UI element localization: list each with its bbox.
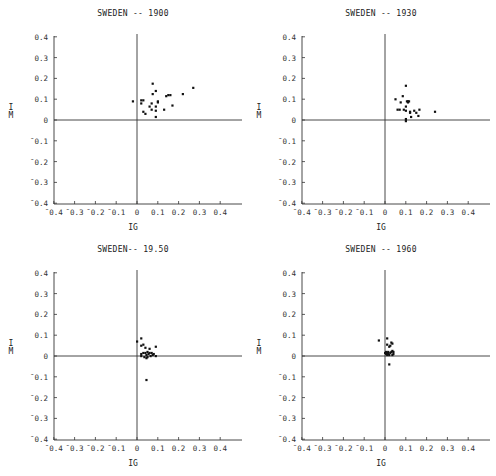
- data-point: [182, 93, 184, 95]
- data-point: [391, 343, 393, 345]
- y-tick-label: ¯0.2: [278, 394, 296, 403]
- data-point: [142, 111, 144, 113]
- data-point: [408, 100, 410, 102]
- x-axis-label: IG: [248, 223, 496, 232]
- x-axis-label: IG: [248, 459, 496, 468]
- chart-panel-1930: SWEDEN -- 1930 0.40.30.20.10¯0.1¯0.2¯0.3…: [248, 0, 496, 238]
- data-point: [405, 85, 407, 87]
- y-tick-label: ¯0.2: [30, 158, 48, 167]
- x-tick-label: 0.1: [151, 444, 165, 453]
- y-axis-label: IM: [254, 340, 264, 356]
- y-tick-label: ¯0.1: [278, 373, 296, 382]
- y-tick-label: ¯0.4: [30, 435, 49, 444]
- data-point: [132, 100, 134, 102]
- x-tick-label: 0.2: [172, 444, 186, 453]
- data-point: [142, 99, 144, 101]
- data-point: [400, 101, 402, 103]
- data-point: [387, 351, 389, 353]
- y-tick-label: 0.2: [34, 74, 48, 83]
- data-point: [192, 87, 194, 89]
- data-point: [155, 105, 157, 107]
- plot-area: 0.40.30.20.10¯0.1¯0.2¯0.3¯0.4¯0.4¯0.3¯0.…: [0, 236, 248, 474]
- y-axis-label: IM: [6, 340, 16, 356]
- x-tick-label: ¯0.3: [66, 444, 84, 453]
- data-point: [167, 94, 169, 96]
- y-tick-label: 0: [43, 352, 48, 361]
- data-point: [388, 354, 390, 356]
- data-point: [415, 112, 417, 114]
- data-point: [413, 110, 415, 112]
- data-point: [148, 352, 150, 354]
- chart-panel-1960: SWEDEN -- 1960 0.40.30.20.10¯0.1¯0.2¯0.3…: [248, 236, 496, 474]
- data-point: [151, 109, 153, 111]
- data-point: [140, 102, 142, 104]
- x-tick-label: 0: [383, 444, 388, 453]
- x-axis-label: IG: [0, 223, 248, 232]
- y-axis-label: IM: [6, 104, 16, 120]
- data-point: [405, 105, 407, 107]
- x-tick-label: ¯0.1: [107, 208, 125, 217]
- data-point: [151, 102, 153, 104]
- y-tick-label: 0.1: [282, 95, 296, 104]
- data-point: [146, 351, 148, 353]
- data-point: [155, 90, 157, 92]
- y-tick-label: ¯0.2: [278, 158, 296, 167]
- data-point: [142, 352, 144, 354]
- data-point: [403, 109, 405, 111]
- data-point: [145, 357, 147, 359]
- x-tick-label: ¯0.1: [107, 444, 125, 453]
- x-tick-label: 0.4: [461, 208, 475, 217]
- data-point: [409, 112, 411, 114]
- x-tick-label: 0.4: [213, 444, 227, 453]
- data-point: [405, 110, 407, 112]
- data-point: [144, 352, 146, 354]
- x-tick-label: 0.3: [441, 444, 455, 453]
- x-tick-label: 0.2: [420, 444, 434, 453]
- plot-area: 0.40.30.20.10¯0.1¯0.2¯0.3¯0.4¯0.4¯0.3¯0.…: [248, 0, 496, 238]
- data-point: [153, 353, 155, 355]
- data-point: [389, 345, 391, 347]
- x-tick-label: 0.1: [151, 208, 165, 217]
- x-tick-label: 0.3: [193, 208, 207, 217]
- data-point: [150, 355, 152, 357]
- y-tick-label: ¯0.1: [30, 373, 48, 382]
- data-point: [144, 113, 146, 115]
- data-point: [143, 356, 145, 358]
- data-point: [386, 344, 388, 346]
- y-axis-label-text: IM: [254, 104, 264, 120]
- x-tick-label: ¯0.4: [293, 208, 312, 217]
- y-axis-label-text: IM: [254, 340, 264, 356]
- data-point: [155, 346, 157, 348]
- x-tick-label: ¯0.4: [45, 208, 64, 217]
- data-point: [434, 111, 436, 113]
- y-tick-label: 0.1: [34, 331, 48, 340]
- x-tick-label: 0: [383, 208, 388, 217]
- x-tick-label: ¯0.2: [86, 444, 104, 453]
- data-point: [399, 109, 401, 111]
- x-axis-label: IG: [0, 459, 248, 468]
- x-tick-label: ¯0.3: [314, 444, 332, 453]
- x-tick-label: 0: [135, 208, 140, 217]
- data-point: [394, 98, 396, 100]
- data-point: [392, 351, 394, 353]
- x-tick-label: ¯0.4: [45, 444, 64, 453]
- chart-panel-1900: SWEDEN -- 1900 0.40.30.20.10¯0.1¯0.2¯0.3…: [0, 0, 248, 238]
- y-tick-label: 0.3: [34, 290, 48, 299]
- data-point: [171, 104, 173, 106]
- data-point: [155, 110, 157, 112]
- data-point: [396, 109, 398, 111]
- y-tick-label: 0.2: [34, 310, 48, 319]
- x-tick-label: ¯0.2: [334, 444, 352, 453]
- y-tick-label: 0: [291, 116, 296, 125]
- data-point: [136, 340, 138, 342]
- y-tick-label: ¯0.4: [278, 435, 297, 444]
- y-tick-label: 0.3: [34, 54, 48, 63]
- data-point: [410, 116, 412, 118]
- y-tick-label: 0.2: [282, 310, 296, 319]
- y-tick-label: ¯0.3: [30, 178, 48, 187]
- data-point: [152, 83, 154, 85]
- y-axis-label-text: IM: [6, 340, 16, 356]
- y-tick-label: ¯0.1: [30, 137, 48, 146]
- data-point: [151, 352, 153, 354]
- y-tick-label: ¯0.1: [278, 137, 296, 146]
